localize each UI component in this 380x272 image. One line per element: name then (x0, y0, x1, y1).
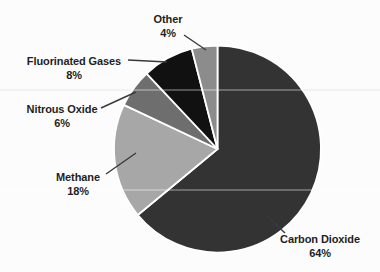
slice-label-name: Other (154, 12, 183, 26)
slice-label-carbon-dioxide: Carbon Dioxide 64% (280, 232, 360, 260)
slice-label-percent: 4% (154, 26, 183, 40)
leader-line-fluorinated-gases (128, 60, 167, 62)
slice-label-methane: Methane 18% (56, 170, 100, 198)
slice-label-percent: 64% (280, 246, 360, 260)
slice-label-percent: 8% (27, 68, 121, 82)
slice-label-other: Other 4% (154, 12, 183, 40)
slice-label-percent: 18% (56, 184, 100, 198)
slice-label-percent: 6% (27, 116, 98, 130)
slice-label-name: Nitrous Oxide (27, 102, 98, 116)
slice-label-nitrous-oxide: Nitrous Oxide 6% (27, 102, 98, 130)
slice-label-name: Carbon Dioxide (280, 232, 360, 246)
pie-chart-figure: Other 4% Fluorinated Gases 8% Nitrous Ox… (0, 0, 380, 272)
slice-label-fluorinated-gases: Fluorinated Gases 8% (27, 54, 121, 82)
slice-label-name: Methane (56, 170, 100, 184)
pie-slices (114, 46, 321, 253)
slice-label-name: Fluorinated Gases (27, 54, 121, 68)
